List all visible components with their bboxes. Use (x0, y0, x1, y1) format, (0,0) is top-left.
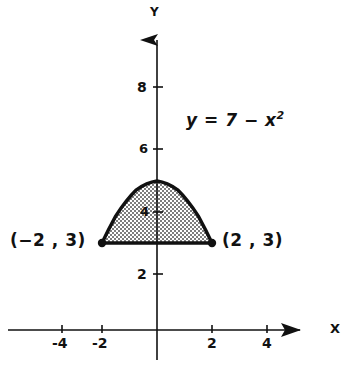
x-axis-label: X (330, 322, 340, 335)
x-tick-label--2: -2 (92, 336, 108, 350)
coordinate-plot (0, 0, 356, 369)
y-tick-label-4: 4 (140, 205, 149, 218)
x-tick-label-2: 2 (207, 336, 217, 350)
point-label-left: (−2 , 3) (10, 232, 86, 249)
point-right-marker (208, 239, 216, 247)
x-tick-label--4: -4 (52, 336, 68, 350)
curve-equation: y = 7 − x2 (186, 110, 285, 129)
y-tick-label-8: 8 (137, 80, 147, 94)
point-label-right: (2 , 3) (222, 232, 283, 249)
x-tick-label-4: 4 (262, 336, 272, 350)
graph-figure: Y X -4 -2 2 4 8 6 4 2 y = 7 − x2 (−2 , 3… (0, 0, 356, 369)
y-tick-label-2: 2 (137, 267, 147, 281)
curve-equation-y: y (186, 110, 198, 130)
curve-equation-exponent: 2 (277, 109, 285, 122)
y-axis-label: Y (150, 6, 159, 18)
y-tick-label-6: 6 (139, 142, 148, 155)
curve-equation-eq: = (204, 110, 219, 130)
curve-equation-rhs: 7 − x (225, 110, 276, 130)
point-left-marker (98, 239, 106, 247)
